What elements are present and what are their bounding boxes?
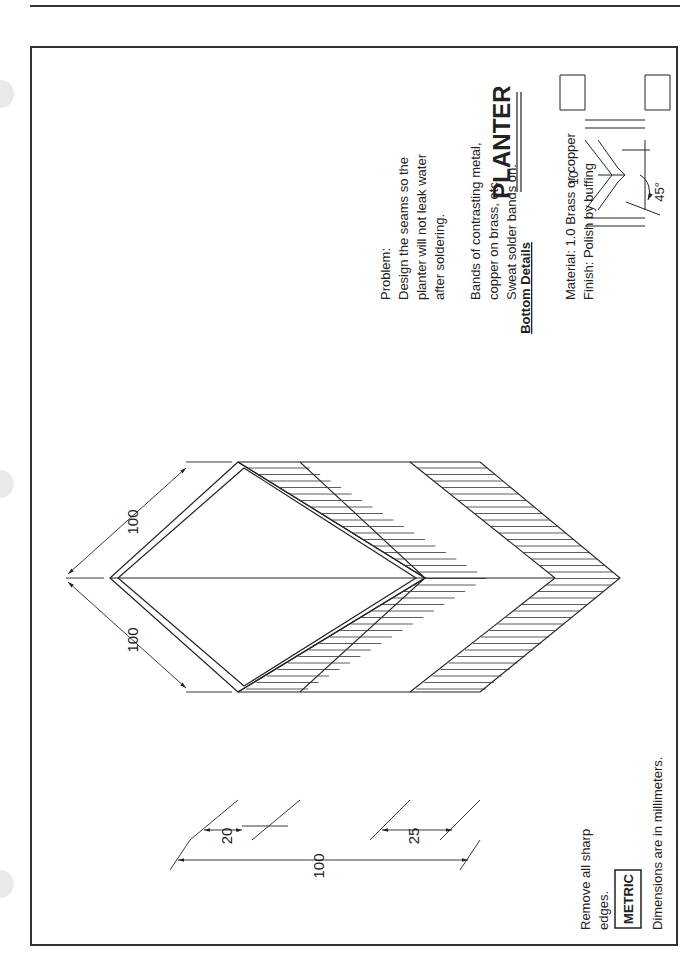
planter-top-rim — [110, 462, 425, 692]
svg-text:planter will not leak water: planter will not leak water — [414, 153, 429, 300]
material-note: Material: 1.0 Brass or copper Finish: Po… — [563, 132, 596, 300]
dim-height: 100 — [310, 853, 327, 878]
svg-text:Finish: Polish by buffing: Finish: Polish by buffing — [581, 163, 596, 300]
lower-band — [410, 462, 620, 692]
svg-text:edges.: edges. — [596, 891, 611, 930]
units-note: Dimensions are in millimeters. — [650, 757, 665, 930]
problem-note: Problem: Design the seams so the planter… — [378, 153, 447, 300]
svg-text:Problem:: Problem: — [378, 248, 393, 300]
bottom-details-label: Bottom Details — [518, 242, 533, 334]
dim-side-a: 100 — [124, 509, 141, 534]
upper-band — [238, 462, 425, 692]
dim-side-b: 100 — [124, 627, 141, 652]
metric-label: METRIC — [621, 873, 636, 923]
svg-text:Material: 1.0 Brass or copper: Material: 1.0 Brass or copper — [563, 132, 578, 300]
svg-text:Design the seams so the: Design the seams so the — [396, 157, 411, 300]
edges-note: Remove all sharp edges. — [578, 829, 611, 930]
svg-text:copper on brass, etc.: copper on brass, etc. — [486, 179, 501, 300]
svg-text:Sweat solder bands on.: Sweat solder bands on. — [504, 164, 519, 300]
dim-bottom-band: 25 — [405, 828, 422, 845]
planter-drawing: 100 100 20 25 100 10 45° Bottom Details … — [0, 0, 694, 964]
svg-text:after soldering.: after soldering. — [432, 214, 447, 300]
dim-top-band: 20 — [218, 828, 235, 845]
svg-text:Bands of contrasting metal,: Bands of contrasting metal, — [468, 142, 483, 300]
svg-text:Remove all sharp: Remove all sharp — [578, 829, 593, 930]
bottom-details-angle: 45° — [652, 182, 667, 202]
